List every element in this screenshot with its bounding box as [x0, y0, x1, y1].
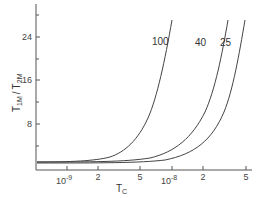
curve-label-100: 100 [152, 36, 169, 47]
x-axis [36, 166, 252, 170]
curve-25 [37, 20, 245, 163]
y-tick-24: 24 [22, 32, 32, 42]
x-tick-5e-8: 5 [243, 172, 248, 182]
curve-label-25: 25 [220, 37, 232, 48]
y-tick-8: 8 [27, 119, 32, 129]
chart-canvas: 24 16 8 10-9 2 5 10-8 2 5 TC T1M/T2M 100… [0, 0, 271, 198]
curve-label-40: 40 [195, 37, 207, 48]
y-axis-title: T1M/T2M [11, 73, 23, 112]
x-tick-1e-8: 10-8 [161, 174, 177, 186]
y-tick-16: 16 [22, 75, 32, 85]
x-tick-1e-9: 10-9 [56, 174, 72, 186]
x-axis-title: TC [116, 183, 127, 195]
x-tick-5e-9: 5 [137, 172, 142, 182]
x-tick-2e-9: 2 [95, 172, 100, 182]
y-axis [36, 4, 40, 170]
x-tick-2e-8: 2 [200, 172, 205, 182]
